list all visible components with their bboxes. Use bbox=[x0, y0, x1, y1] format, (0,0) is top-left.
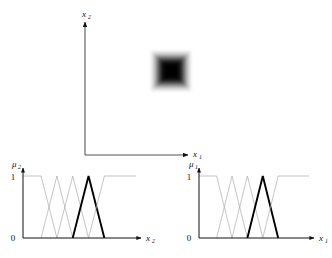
mu1-axis-label: μ bbox=[188, 159, 194, 169]
figure-canvas: x 2 x 1 μ 2 1 0 x 2 bbox=[0, 0, 332, 258]
mu2-membership-chart: μ 2 1 0 x 2 bbox=[11, 159, 155, 244]
mu1-tick-zero: 0 bbox=[187, 233, 192, 243]
mu1-tick-one: 1 bbox=[187, 172, 192, 182]
mu1-membership-chart: μ 1 1 0 x 1 bbox=[187, 159, 328, 244]
membership-curve bbox=[41, 176, 73, 238]
main-plot-x-axis-label-sub: 1 bbox=[199, 154, 202, 160]
mu2-x-axis-label-sub: 2 bbox=[152, 238, 155, 244]
main-plot-y-axis-label-sub: 2 bbox=[88, 14, 91, 20]
main-plot-y-axis-label: x bbox=[81, 9, 86, 19]
membership-curve bbox=[232, 176, 263, 238]
mu2-axis-label: μ bbox=[11, 159, 17, 169]
membership-curve bbox=[247, 176, 278, 238]
membership-curve bbox=[199, 176, 232, 238]
membership-curve bbox=[217, 176, 248, 238]
mu2-axis-label-sub: 2 bbox=[18, 164, 21, 170]
mu1-x-axis-label: x bbox=[318, 233, 323, 243]
mu1-axis-label-sub: 1 bbox=[195, 164, 198, 170]
main-plot-x-axis-label: x bbox=[192, 149, 197, 159]
membership-curve bbox=[23, 176, 57, 238]
membership-curve bbox=[57, 176, 89, 238]
mu2-curve-group bbox=[23, 176, 136, 238]
membership-curve bbox=[73, 176, 105, 238]
mu1-curve-group bbox=[199, 176, 309, 238]
fuzzy-partition-figure: x 2 x 1 μ 2 1 0 x 2 bbox=[0, 0, 332, 258]
mu2-tick-one: 1 bbox=[11, 172, 16, 182]
mu2-x-axis-label: x bbox=[145, 233, 150, 243]
blurred-square-region bbox=[151, 51, 191, 91]
input-space-plot: x 2 x 1 bbox=[81, 9, 202, 160]
fuzzy-region-ring bbox=[169, 69, 174, 74]
mu1-x-axis-label-sub: 1 bbox=[325, 238, 328, 244]
mu2-tick-zero: 0 bbox=[11, 233, 16, 243]
